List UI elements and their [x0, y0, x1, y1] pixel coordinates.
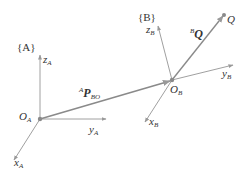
- x-a-axis: [14, 119, 40, 160]
- vector-p-bo-label: APBO: [78, 86, 100, 101]
- y-a-label: yA: [88, 123, 99, 137]
- frame-b-axes: [145, 26, 233, 122]
- y-b-label: yB: [221, 67, 232, 81]
- z-b-label: zB: [145, 23, 155, 37]
- frame-a-label: {A}: [17, 41, 36, 53]
- z-a-label: zA: [42, 53, 52, 67]
- origin-a-label: OA: [19, 110, 32, 124]
- x-a-label: xA: [13, 156, 24, 170]
- coordinate-frames-diagram: {A} zA OA yA xA APBO {B} zB OB yB xB BQ …: [0, 0, 244, 176]
- point-q-label: Q: [227, 13, 235, 25]
- x-b-label: xB: [148, 115, 159, 129]
- z-b-axis: [158, 26, 172, 80]
- frame-b-label: {B}: [138, 11, 156, 23]
- vector-q: [172, 16, 223, 80]
- point-q: [222, 13, 226, 17]
- frame-a-axes: [14, 55, 106, 160]
- vector-q-label: BQ: [190, 27, 203, 41]
- origin-b-label: OB: [170, 83, 183, 97]
